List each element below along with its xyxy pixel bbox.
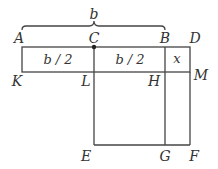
point-m: M [193,67,209,83]
point-e: E [80,148,91,164]
label-lh: b / 2 [115,52,144,67]
point-l: L [80,73,90,89]
geometric-diagram: b b / 2 b / 2 x A C B D K L H M E G F [0,0,218,169]
label-hm: x [173,51,181,66]
point-a: A [12,30,24,46]
point-c: C [89,30,100,46]
point-d: D [188,30,200,46]
label-kl: b / 2 [43,52,72,67]
brace-label: b [90,6,99,22]
point-b: B [159,30,170,46]
point-g: G [159,148,170,164]
point-h: H [147,73,161,89]
point-k: K [11,73,24,89]
point-f: F [188,148,200,164]
brace-b [22,21,165,30]
